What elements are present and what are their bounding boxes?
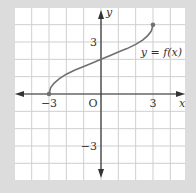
series-label: y = f(x)	[140, 46, 182, 59]
x-axis-label: x	[179, 97, 186, 110]
function-graph: −333−3Oxyy = f(x)	[0, 0, 196, 193]
y-axis-label: y	[105, 6, 113, 19]
curve-endpoint	[47, 92, 52, 97]
curve-endpoint	[151, 22, 156, 27]
origin-label: O	[88, 97, 97, 110]
y-tick-label: 3	[90, 36, 97, 49]
y-tick-label: −3	[81, 140, 97, 153]
x-tick-label: −3	[41, 97, 57, 110]
x-tick-label: 3	[149, 97, 156, 110]
